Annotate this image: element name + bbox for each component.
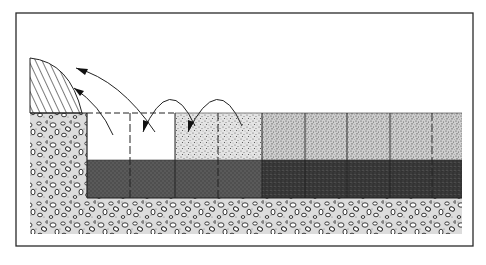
diagram-stage — [0, 0, 486, 265]
trench-cross-section — [0, 0, 486, 265]
open-trench — [87, 113, 175, 160]
